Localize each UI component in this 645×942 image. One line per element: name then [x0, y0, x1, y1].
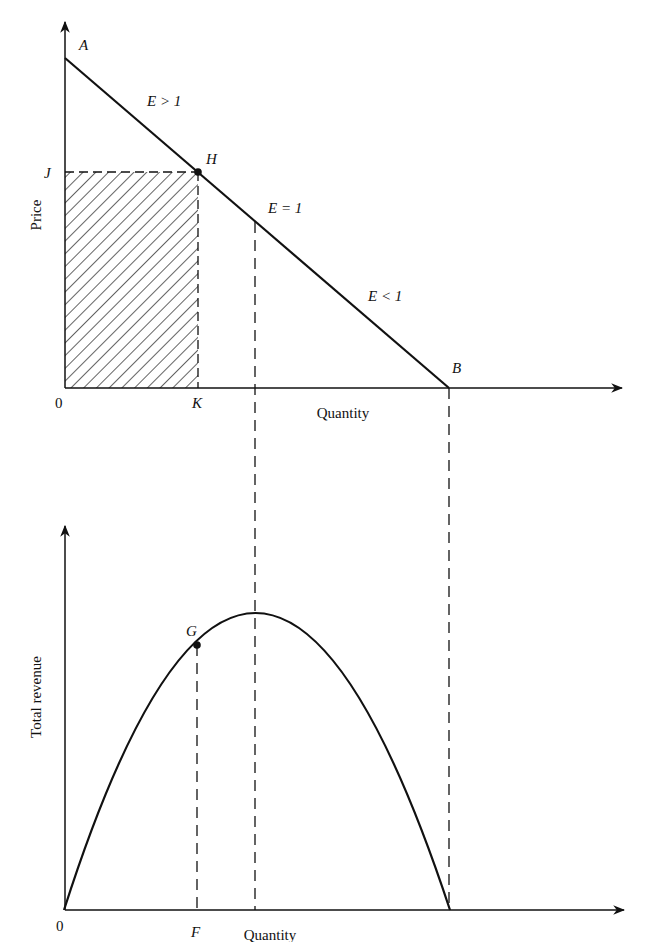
label-inelastic: E < 1 [367, 288, 402, 304]
label-elastic: E > 1 [146, 93, 181, 109]
elasticity-total-revenue-diagram: A H J 0 K B E > 1 E = 1 E < 1 Price Quan… [0, 0, 645, 942]
price-axis-title: Price [28, 199, 44, 230]
label-b: B [452, 360, 461, 376]
label-j: J [44, 165, 52, 181]
total-revenue-curve [64, 613, 450, 910]
demand-plot: A H J 0 K B E > 1 E = 1 E < 1 Price Quan… [28, 22, 622, 421]
total-revenue-axis-title: Total revenue [28, 656, 44, 738]
connector-lines [255, 222, 449, 910]
label-origin-top: 0 [55, 395, 63, 411]
revenue-rectangle-hatched [65, 172, 198, 388]
point-g-dot [193, 641, 201, 649]
label-g: G [186, 623, 197, 639]
label-f: F [190, 924, 201, 940]
quantity-axis-title-bottom: Quantity [244, 927, 297, 942]
label-k: K [191, 395, 203, 411]
label-origin-bottom: 0 [56, 918, 64, 934]
quantity-axis-title-top: Quantity [317, 405, 370, 421]
point-h-dot [194, 168, 202, 176]
label-unit-elastic: E = 1 [267, 200, 302, 216]
total-revenue-plot: G 0 F Total revenue Quantity [28, 526, 624, 942]
label-a: A [78, 37, 89, 53]
label-h: H [205, 151, 218, 167]
